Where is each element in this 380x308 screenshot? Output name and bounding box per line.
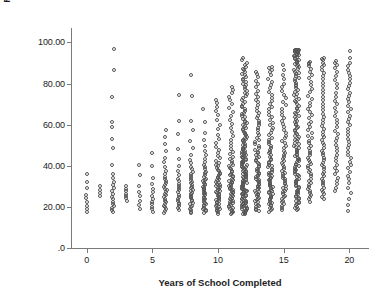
data-point bbox=[321, 81, 325, 85]
plot-area bbox=[71, 28, 369, 248]
data-point bbox=[349, 156, 353, 160]
data-point bbox=[215, 105, 219, 109]
y-tick bbox=[67, 248, 71, 249]
data-point bbox=[333, 129, 337, 133]
data-point bbox=[112, 68, 116, 72]
data-point bbox=[335, 125, 339, 129]
data-point bbox=[110, 163, 114, 167]
data-point bbox=[216, 133, 220, 137]
x-tick-label: 10 bbox=[213, 255, 223, 265]
data-point bbox=[335, 163, 339, 167]
data-point bbox=[308, 101, 312, 105]
y-axis-title: R's Socioeconomic Index bbox=[0, 0, 14, 56]
data-point bbox=[150, 151, 154, 155]
data-point bbox=[306, 134, 310, 138]
data-point bbox=[271, 192, 275, 196]
data-point bbox=[335, 153, 339, 157]
data-point bbox=[203, 144, 207, 148]
data-point bbox=[189, 153, 193, 157]
data-point bbox=[230, 102, 234, 106]
data-point bbox=[309, 80, 313, 84]
data-point bbox=[245, 61, 249, 65]
data-point bbox=[348, 56, 352, 60]
data-point bbox=[254, 70, 258, 74]
x-tick-label: 15 bbox=[279, 255, 289, 265]
data-point bbox=[348, 91, 352, 95]
data-point bbox=[191, 128, 195, 132]
data-point bbox=[322, 56, 326, 60]
data-point bbox=[335, 70, 339, 74]
data-point bbox=[201, 107, 205, 111]
data-point bbox=[334, 186, 338, 190]
data-point bbox=[137, 203, 141, 207]
data-point bbox=[177, 173, 181, 177]
data-point bbox=[284, 103, 288, 107]
data-point bbox=[306, 94, 310, 98]
x-tick bbox=[152, 249, 153, 253]
y-tick-label: 80.00 bbox=[43, 79, 65, 89]
data-point bbox=[282, 68, 286, 72]
data-point bbox=[348, 61, 352, 65]
data-point bbox=[229, 114, 233, 118]
data-point bbox=[137, 184, 141, 188]
data-point bbox=[336, 176, 340, 180]
data-point bbox=[267, 90, 271, 94]
data-point bbox=[270, 80, 274, 84]
data-point bbox=[111, 183, 115, 187]
data-point bbox=[230, 122, 234, 126]
data-point bbox=[230, 85, 234, 89]
data-point bbox=[334, 74, 338, 78]
data-point bbox=[110, 125, 114, 129]
data-point bbox=[310, 87, 314, 91]
data-point bbox=[177, 164, 181, 168]
data-point bbox=[150, 194, 154, 198]
data-point bbox=[215, 101, 219, 105]
data-point bbox=[163, 142, 167, 146]
data-point bbox=[347, 100, 351, 104]
data-point bbox=[85, 200, 89, 204]
data-point bbox=[163, 135, 167, 139]
data-point bbox=[347, 197, 351, 201]
y-tick-label: 60.00 bbox=[43, 120, 65, 130]
scatter-plot-figure: .020.0040.0060.0080.00100.00 05101520 Ye… bbox=[0, 0, 380, 308]
data-point bbox=[85, 180, 89, 184]
data-point bbox=[176, 169, 180, 173]
data-point bbox=[137, 163, 141, 167]
data-point bbox=[293, 48, 297, 52]
data-point bbox=[190, 94, 194, 98]
data-point bbox=[163, 156, 167, 160]
data-point bbox=[188, 139, 192, 143]
data-point bbox=[231, 134, 235, 138]
data-point bbox=[177, 93, 181, 97]
data-point bbox=[280, 85, 284, 89]
data-point bbox=[245, 163, 249, 167]
data-point bbox=[321, 112, 325, 116]
data-point bbox=[189, 119, 193, 123]
data-point bbox=[333, 114, 337, 118]
data-point bbox=[282, 93, 286, 97]
data-point bbox=[203, 157, 207, 161]
data-point bbox=[334, 110, 338, 114]
data-point bbox=[231, 110, 235, 114]
data-point bbox=[177, 119, 181, 123]
x-tick-label: 5 bbox=[150, 255, 155, 265]
data-point bbox=[111, 172, 115, 176]
data-point bbox=[112, 180, 116, 184]
data-point bbox=[256, 89, 260, 93]
x-tick bbox=[87, 249, 88, 253]
data-point bbox=[214, 141, 218, 145]
data-point bbox=[348, 49, 352, 53]
data-point bbox=[348, 170, 352, 174]
data-point bbox=[230, 130, 234, 134]
data-point bbox=[334, 95, 338, 99]
x-tick bbox=[349, 249, 350, 253]
data-point bbox=[111, 146, 115, 150]
data-point bbox=[297, 76, 301, 80]
data-point bbox=[110, 95, 114, 99]
x-tick-label: 20 bbox=[344, 255, 354, 265]
data-point bbox=[162, 160, 166, 164]
data-point bbox=[270, 65, 274, 69]
data-point bbox=[334, 143, 338, 147]
y-tick-label: .0 bbox=[58, 243, 65, 253]
data-point bbox=[257, 144, 261, 148]
